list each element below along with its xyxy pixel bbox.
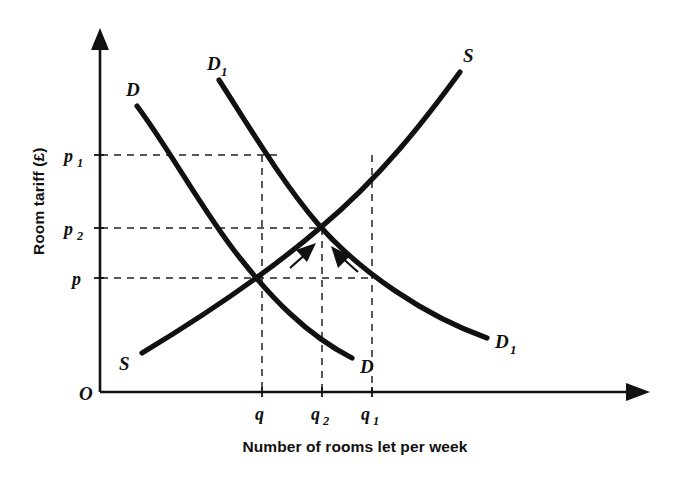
y-tick-label-p2-subscript: 2 — [76, 229, 83, 243]
curve-label-demand-shifted-end: D 1 — [494, 331, 517, 357]
y-tick-label-p1: p 1 — [62, 146, 83, 170]
curve-demand-shifted — [219, 80, 487, 338]
curve-label-demand-shifted-subscript: 1 — [221, 64, 228, 79]
supply-demand-chart: Room tariff (£) D D 1 S S — [0, 0, 678, 480]
curve-label-demand-shifted-base: D — [206, 53, 221, 74]
y-tick-label-p2: p 2 — [62, 219, 83, 243]
x-axis-arrowhead — [626, 383, 650, 401]
curve-label-demand-original-end: D — [359, 356, 374, 377]
x-tick-label-q2: q 2 — [311, 404, 329, 428]
x-tick-label-q1: q 1 — [361, 404, 379, 428]
y-tick-label-p-base: p — [70, 269, 81, 289]
x-tick-label-q1-subscript: 1 — [373, 414, 379, 428]
curve-label-supply-top: S — [463, 45, 474, 66]
curve-label-demand-shifted-end-base: D — [494, 331, 509, 352]
y-tick-label-p1-base: p — [62, 146, 73, 166]
curve-label-demand-shifted-end-subscript: 1 — [510, 342, 517, 357]
x-tick-label-q-base: q — [255, 404, 264, 424]
curve-supply — [142, 72, 460, 353]
curve-label-supply-bottom: S — [119, 353, 130, 374]
y-axis-arrowhead — [91, 28, 109, 50]
y-tick-label-p2-base: p — [62, 219, 73, 239]
curve-demand-original — [137, 106, 352, 358]
x-tick-label-q: q — [255, 404, 264, 424]
y-tick-label-p: p — [70, 269, 81, 289]
x-axis-title: Number of rooms let per week — [242, 438, 467, 455]
curve-label-demand-original: D — [125, 79, 140, 100]
y-axis-title: Room tariff (£) — [30, 148, 47, 255]
y-tick-label-p1-subscript: 1 — [77, 156, 83, 170]
x-tick-label-q1-base: q — [361, 404, 370, 424]
x-tick-label-q2-subscript: 2 — [322, 414, 329, 428]
curve-label-demand-shifted: D 1 — [206, 53, 228, 79]
x-tick-label-q2-base: q — [311, 404, 320, 424]
origin-label: O — [79, 383, 93, 404]
